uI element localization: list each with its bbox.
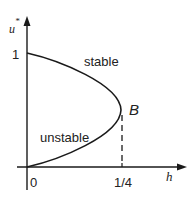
x-axis-label: h xyxy=(166,170,173,183)
stable-branch-label: stable xyxy=(84,55,119,68)
y-axis-label-star: * xyxy=(15,16,20,26)
x-tick-quarter-label: 1/4 xyxy=(114,176,132,189)
x-tick-zero: 0 xyxy=(30,176,37,189)
bifurcation-point-label: B xyxy=(129,102,139,117)
y-axis-arrow-icon xyxy=(24,16,31,26)
equilibrium-curve xyxy=(27,53,121,167)
y-tick-one: 1 xyxy=(12,48,19,61)
y-axis-label: u* xyxy=(9,21,20,35)
x-axis-arrow-icon xyxy=(177,164,187,171)
unstable-branch-label: unstable xyxy=(40,131,89,144)
